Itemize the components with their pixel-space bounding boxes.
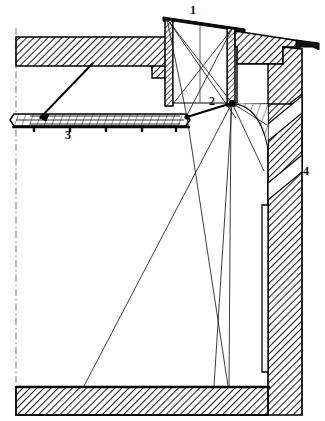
callout-label-4: 4 xyxy=(303,165,309,177)
lantern-right-jamb xyxy=(227,28,235,106)
wall-inner-pilaster xyxy=(262,205,268,372)
lantern-left-jamb xyxy=(165,20,173,106)
floor-slab xyxy=(16,387,268,415)
roof-slab-reveal xyxy=(152,66,166,78)
upper-right-niche xyxy=(237,64,268,104)
exterior-wall-section xyxy=(268,104,302,415)
callout-label-2: 2 xyxy=(209,95,215,107)
callout-label-3: 3 xyxy=(65,129,71,141)
cross-section-drawing xyxy=(0,0,325,421)
callout-label-1: 1 xyxy=(190,4,196,16)
figure-root: 1 2 3 4 xyxy=(0,0,325,421)
